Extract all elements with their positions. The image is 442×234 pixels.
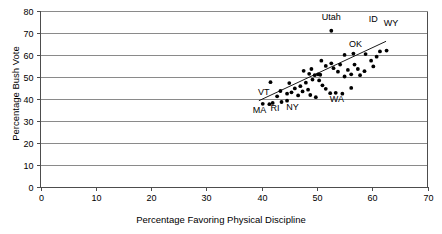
data-point [319, 59, 323, 63]
data-point [306, 88, 310, 92]
y-axis-ticks: 01020304050607080 [23, 7, 40, 193]
data-point [324, 87, 328, 91]
data-point [332, 66, 336, 70]
data-point [275, 94, 279, 98]
data-point [269, 80, 273, 84]
data-point [301, 90, 305, 94]
data-point [338, 63, 342, 67]
x-tick-label: 60 [367, 193, 377, 203]
data-point [290, 90, 294, 94]
point-label: ID [369, 14, 379, 24]
data-point [307, 72, 311, 76]
x-tick-label: 10 [91, 193, 101, 203]
data-point [314, 95, 318, 99]
data-point [329, 29, 333, 33]
point-label: WA [330, 94, 344, 104]
data-point [308, 93, 312, 97]
data-point [321, 83, 325, 87]
data-point [293, 86, 297, 90]
data-point [358, 73, 362, 77]
data-point [329, 61, 333, 65]
data-point [280, 100, 284, 104]
y-tick-label: 30 [23, 117, 33, 127]
x-tick-label: 40 [257, 193, 267, 203]
data-point [349, 86, 353, 90]
data-points [261, 29, 389, 106]
data-point [364, 52, 368, 56]
trend-line [259, 41, 386, 100]
data-point [302, 69, 306, 73]
y-tick-label: 20 [23, 139, 33, 149]
x-axis-title: Percentage Favoring Physical Discipline [0, 214, 442, 225]
y-tick-label: 40 [23, 95, 33, 105]
y-tick-label: 70 [23, 29, 33, 39]
x-tick-label: 70 [423, 193, 433, 203]
x-tick-label: 0 [39, 193, 44, 203]
data-point [346, 68, 350, 72]
data-point [378, 50, 382, 54]
y-tick-label: 60 [23, 51, 33, 61]
data-point [324, 64, 328, 68]
grid-lines [41, 12, 428, 166]
x-tick-label: 30 [201, 193, 211, 203]
y-tick-label: 50 [23, 73, 33, 83]
data-point [298, 84, 302, 88]
data-point [313, 73, 317, 77]
data-point [287, 81, 291, 85]
data-point [356, 67, 360, 71]
data-point [369, 59, 373, 63]
data-point [296, 94, 300, 98]
data-point [349, 72, 353, 76]
plot-area: 01020304050607080 010203040506070 UtahID… [0, 0, 442, 234]
point-label: Utah [322, 12, 341, 22]
data-point [310, 67, 314, 71]
x-tick-label: 20 [146, 193, 156, 203]
y-tick-label: 10 [23, 161, 33, 171]
y-axis-title: Percentage Bush Vote [10, 24, 21, 164]
data-point [343, 53, 347, 57]
x-tick-label: 50 [312, 193, 322, 203]
point-label: MA [253, 105, 267, 115]
data-point [317, 79, 321, 83]
y-tick-label: 80 [23, 7, 33, 17]
data-point [371, 64, 375, 68]
data-point [304, 81, 308, 85]
point-label: VT [258, 87, 270, 97]
point-label: RI [270, 103, 279, 113]
data-point [279, 89, 283, 93]
data-point [285, 92, 289, 96]
data-point [375, 55, 379, 59]
data-point [363, 69, 367, 73]
data-point [311, 78, 315, 82]
point-label: OK [349, 39, 362, 49]
data-point [336, 70, 340, 74]
point-label: WY [384, 18, 399, 28]
point-label: NY [286, 102, 299, 112]
scatter-chart: 01020304050607080 010203040506070 UtahID… [0, 0, 442, 234]
data-point [353, 63, 357, 67]
data-point [343, 75, 347, 79]
data-point [385, 49, 389, 53]
data-point [318, 73, 322, 77]
regression-line [259, 41, 386, 100]
data-point [352, 52, 356, 56]
x-axis-ticks: 010203040506070 [39, 187, 434, 203]
y-tick-label: 0 [28, 183, 33, 193]
